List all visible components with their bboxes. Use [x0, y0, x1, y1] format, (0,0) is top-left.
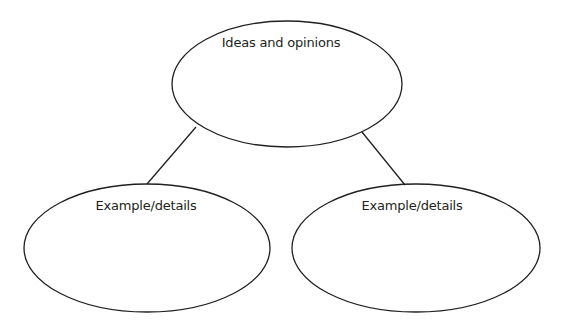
edge-top-to-left [147, 127, 196, 184]
node-top-label: Ideas and opinions [222, 35, 341, 50]
node-left-label: Example/details [95, 198, 196, 213]
node-right-label: Example/details [361, 198, 462, 213]
edge-top-to-right [362, 132, 405, 185]
concept-diagram: Ideas and opinions Example/details Examp… [0, 0, 564, 328]
